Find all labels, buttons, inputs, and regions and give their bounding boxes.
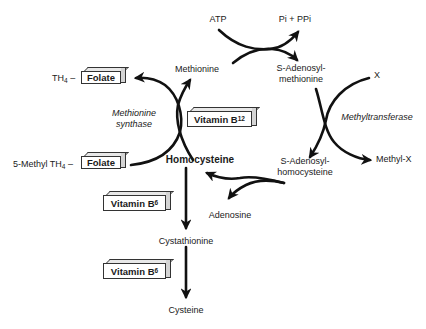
cystathionine-label: Cystathionine <box>151 236 221 247</box>
adenosine-label: Adenosine <box>200 210 260 221</box>
sah-label-line2: homocysteine <box>270 167 340 178</box>
box-side-face <box>252 107 257 126</box>
methyltransferase-label: Methyltransferase <box>332 112 422 123</box>
methyl-th4-label: 5-Methyl TH4 – <box>13 159 73 170</box>
homocysteine-label: Homocysteine <box>160 154 240 165</box>
arrow-methionine-to-sam <box>233 49 297 63</box>
th4-prefix: TH <box>52 73 64 83</box>
vitamin-b12-label: Vitamin B12 <box>187 111 252 127</box>
methionine-label: Methionine <box>167 64 227 75</box>
arrow-sah-to-adenosine <box>229 181 284 198</box>
methyl-x-label: Methyl-X <box>376 154 412 165</box>
sam-label-line2: methionine <box>266 74 336 85</box>
vitamin-b6-lower-main: Vitamin B <box>111 266 155 277</box>
vitamin-b12-main: Vitamin B <box>194 114 238 125</box>
arrow-atp-to-pippi <box>219 30 298 49</box>
box-side-face <box>121 67 126 83</box>
vitamin-b12-box: Vitamin B12 <box>187 107 257 127</box>
folate-box-top: Folate <box>81 67 126 84</box>
x-label: X <box>374 70 380 81</box>
sam-label-line1: S-Adenosyl- <box>266 63 336 74</box>
vitamin-b6-upper-label: Vitamin B6 <box>103 195 166 211</box>
sah-label: S-Adenosyl- homocysteine <box>270 156 340 178</box>
folate-box-bottom-label: Folate <box>81 156 121 169</box>
vitamin-b6-box-upper: Vitamin B6 <box>103 191 171 211</box>
box-side-face <box>121 152 126 168</box>
th4-label: TH4 – <box>52 73 75 84</box>
methyl-th4-dash: – <box>65 159 73 169</box>
methionine-synthase-label: Methionine synthase <box>106 108 162 130</box>
box-side-face <box>166 191 171 210</box>
methyl-th4-prefix: 5-Methyl TH <box>13 159 62 169</box>
box-side-face <box>166 259 171 278</box>
vitamin-b6-box-lower: Vitamin B6 <box>103 259 171 279</box>
folate-box-bottom: Folate <box>81 152 126 169</box>
atp-label: ATP <box>203 14 233 25</box>
pi-ppi-label: Pi + PPi <box>270 14 320 25</box>
arrow-x-to-methylx <box>316 89 370 160</box>
th4-dash: – <box>68 73 76 83</box>
methionine-synthase-line1: Methionine <box>106 108 162 119</box>
cysteine-label: Cysteine <box>161 305 211 316</box>
folate-box-top-label: Folate <box>81 71 121 84</box>
sah-label-line1: S-Adenosyl- <box>270 156 340 167</box>
methionine-synthase-line2: synthase <box>106 119 162 130</box>
vitamin-b6-upper-main: Vitamin B <box>111 198 155 209</box>
sam-label: S-Adenosyl- methionine <box>266 63 336 85</box>
vitamin-b6-lower-label: Vitamin B6 <box>103 263 166 279</box>
